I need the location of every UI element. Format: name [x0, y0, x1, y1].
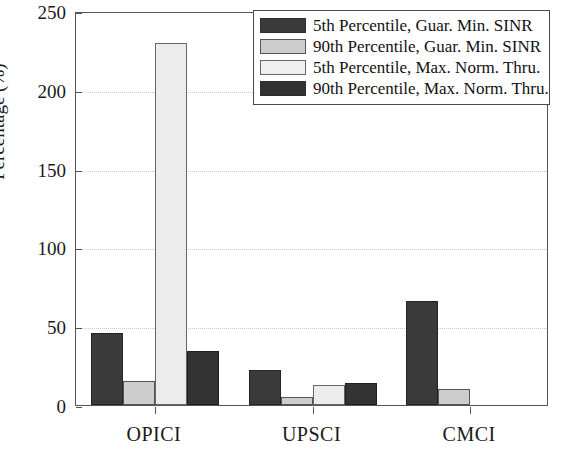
- bar: [406, 301, 438, 405]
- legend-item: 90th Percentile, Max. Norm. Thru.: [260, 78, 543, 99]
- y-tick-label: 100: [8, 239, 66, 258]
- x-tick-label: UPSCI: [282, 424, 341, 444]
- legend-swatch: [260, 60, 306, 75]
- bar: [249, 370, 281, 405]
- y-tick-mark: [76, 328, 82, 329]
- x-tick-label: CMCI: [443, 424, 496, 444]
- y-tick-label: 0: [8, 397, 66, 416]
- legend-item: 5th Percentile, Guar. Min. SINR: [260, 15, 543, 36]
- y-tick-label: 50: [8, 318, 66, 337]
- bar: [281, 397, 313, 405]
- gridline: [76, 328, 547, 329]
- x-tick-mark: [470, 407, 471, 414]
- y-tick-mark: [76, 171, 82, 172]
- bar: [438, 389, 470, 405]
- y-tick-label: 200: [8, 81, 66, 100]
- bar: [155, 43, 187, 405]
- y-tick-label: 250: [8, 3, 66, 22]
- bar-chart-figure: Percentage (%) 050100150200250 OPICIUPSC…: [0, 0, 565, 450]
- x-tick-mark: [313, 407, 314, 414]
- gridline: [76, 171, 547, 172]
- legend-swatch: [260, 39, 306, 54]
- legend-label: 90th Percentile, Max. Norm. Thru.: [313, 80, 549, 97]
- y-tick-mark: [76, 249, 82, 250]
- bar: [187, 351, 219, 405]
- x-tick-label: OPICI: [126, 424, 181, 444]
- legend-swatch: [260, 18, 306, 33]
- legend-label: 5th Percentile, Guar. Min. SINR: [313, 17, 533, 34]
- legend-item: 90th Percentile, Guar. Min. SINR: [260, 36, 543, 57]
- bar: [345, 383, 377, 405]
- y-tick-mark: [76, 92, 82, 93]
- gridline: [76, 249, 547, 250]
- bar: [123, 381, 155, 405]
- bar: [91, 333, 123, 405]
- bar: [313, 385, 345, 405]
- y-tick-mark: [76, 407, 82, 408]
- y-axis-title: Percentage (%): [0, 63, 7, 180]
- x-tick-mark: [155, 407, 156, 414]
- legend-label: 5th Percentile, Max. Norm. Thru.: [313, 59, 540, 76]
- y-tick-label: 150: [8, 160, 66, 179]
- legend-item: 5th Percentile, Max. Norm. Thru.: [260, 57, 543, 78]
- legend-label: 90th Percentile, Guar. Min. SINR: [313, 38, 541, 55]
- y-tick-mark: [76, 13, 82, 14]
- chart-legend: 5th Percentile, Guar. Min. SINR90th Perc…: [253, 10, 550, 105]
- legend-swatch: [260, 81, 306, 96]
